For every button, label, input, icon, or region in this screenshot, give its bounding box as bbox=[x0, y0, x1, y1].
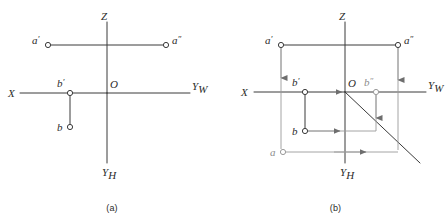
point-b bbox=[67, 124, 72, 129]
label-a: a bbox=[270, 146, 276, 158]
label-b: b bbox=[57, 121, 63, 133]
label-axis-yh: YH bbox=[340, 166, 355, 181]
panel-b: a′ a″ b′ b″ b a Z X YW YH O (b) bbox=[224, 0, 447, 219]
point-a-double-prime bbox=[163, 42, 168, 47]
label-axis-x: X bbox=[7, 87, 16, 99]
point-a-prime bbox=[278, 42, 283, 47]
label-a-prime: a′ bbox=[265, 34, 274, 46]
label-a-prime: a′ bbox=[32, 34, 41, 46]
point-a-prime bbox=[45, 42, 50, 47]
point-b-prime bbox=[302, 89, 307, 94]
label-axis-yw: YW bbox=[428, 79, 444, 94]
label-origin: O bbox=[110, 78, 118, 90]
point-b-double-prime bbox=[373, 89, 378, 94]
label-axis-yw: YW bbox=[192, 80, 208, 95]
label-b-double-prime: b″ bbox=[364, 76, 374, 88]
label-axis-z: Z bbox=[101, 10, 108, 22]
point-b bbox=[302, 128, 307, 133]
projection-figure: a′ a″ b′ b Z X YW YH O (a) bbox=[0, 0, 447, 219]
label-b-prime: b′ bbox=[57, 77, 66, 89]
label-axis-yh: YH bbox=[102, 166, 117, 181]
caption-panel-b: (b) bbox=[224, 203, 447, 213]
panel-a-drawing: a′ a″ b′ b Z X YW YH O bbox=[0, 0, 224, 219]
label-a-double-prime: a″ bbox=[172, 34, 182, 46]
caption-panel-a: (a) bbox=[0, 203, 224, 213]
label-axis-x: X bbox=[240, 86, 249, 98]
label-origin: O bbox=[348, 77, 356, 89]
panel-b-drawing: a′ a″ b′ b″ b a Z X YW YH O bbox=[224, 0, 447, 219]
panel-a: a′ a″ b′ b Z X YW YH O (a) bbox=[0, 0, 224, 219]
label-b-prime: b′ bbox=[292, 76, 301, 88]
point-a-double-prime bbox=[395, 42, 400, 47]
point-b-prime bbox=[67, 90, 72, 95]
label-axis-z: Z bbox=[339, 10, 346, 22]
label-b: b bbox=[292, 125, 298, 137]
point-a bbox=[280, 149, 285, 154]
label-a-double-prime: a″ bbox=[404, 34, 414, 46]
